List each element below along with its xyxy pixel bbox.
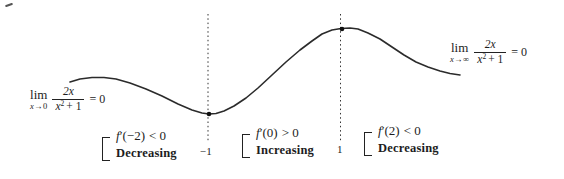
behavior-label: Decreasing — [378, 142, 439, 156]
behavior-label: Increasing — [256, 144, 314, 158]
derivative-sign: f′(0)> 0 — [256, 126, 314, 141]
behavior-label: Decreasing — [116, 147, 177, 161]
arrow-glyph: → — [34, 101, 43, 111]
fraction-denominator: x2+ 1 — [52, 101, 84, 113]
fraction-numerator: 2x — [60, 86, 77, 98]
derivative-sign: f′(−2)< 0 — [116, 129, 177, 144]
interval-annotation-increasing: f′(0)> 0 Increasing — [242, 126, 314, 158]
lim-subscript: x→0 — [30, 102, 47, 111]
figure-page: lim x→0 2x x2+ 1 = 0 lim x→∞ 2x x2+ 1 = … — [0, 0, 564, 179]
function-curve — [70, 28, 460, 114]
critical-point-dot — [340, 27, 345, 32]
limit-result: = 0 — [89, 92, 105, 107]
fraction: 2x x2+ 1 — [474, 39, 506, 66]
derivative-sign: f′(2)< 0 — [378, 124, 439, 139]
infinity-glyph: ∞ — [463, 54, 469, 64]
critical-point-dot — [207, 112, 212, 117]
interval-bracket — [364, 132, 372, 156]
limit-left-expression: lim x→0 2x x2+ 1 = 0 — [30, 86, 105, 113]
lim-subscript: x→∞ — [450, 55, 469, 64]
interval-bracket — [242, 134, 250, 158]
x-label-minus-one: −1 — [194, 145, 218, 157]
arrow-glyph: → — [454, 54, 463, 64]
x-label-one: 1 — [332, 143, 348, 155]
fraction-denominator: x2+ 1 — [474, 54, 506, 66]
interval-text: f′(2)< 0 Decreasing — [378, 124, 439, 156]
fraction: 2x x2+ 1 — [52, 86, 84, 113]
lim-operator: lim x→∞ — [450, 41, 469, 64]
fraction-numerator: 2x — [482, 39, 499, 51]
interval-text: f′(0)> 0 Increasing — [256, 126, 314, 158]
interval-annotation-decreasing-left: f′(−2)< 0 Decreasing — [102, 129, 177, 161]
lim-word: lim — [30, 88, 47, 101]
interval-bracket — [102, 137, 110, 161]
limit-result: = 0 — [511, 45, 527, 60]
interval-text: f′(−2)< 0 Decreasing — [116, 129, 177, 161]
lim-operator: lim x→0 — [30, 88, 47, 111]
interval-annotation-decreasing-right: f′(2)< 0 Decreasing — [364, 124, 439, 156]
limit-right-expression: lim x→∞ 2x x2+ 1 = 0 — [450, 39, 527, 66]
lim-word: lim — [451, 41, 468, 54]
